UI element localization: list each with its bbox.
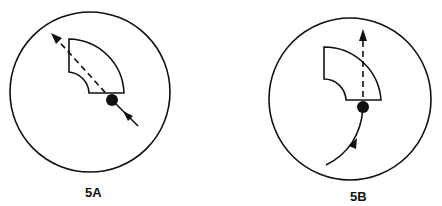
sector-shape [69,39,124,93]
exit-arrow-icon [51,33,62,44]
contact-dot [357,101,369,113]
sector-shape [324,47,381,100]
figure-label: 5A [85,185,102,200]
figure-5b: 5B [269,18,431,204]
figure-label: 5B [350,189,367,204]
outer-circle [269,18,431,180]
outer-circle [10,12,170,172]
diagram-canvas: 5A 5B [0,0,442,206]
contact-dot [106,94,118,106]
entry-path-curved [326,108,363,165]
exit-path-dashed [54,36,112,100]
exit-arrow-icon [359,29,367,41]
figure-5a: 5A [10,12,170,200]
